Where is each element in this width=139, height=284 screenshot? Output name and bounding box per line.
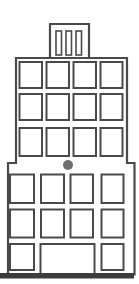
rooftop-slot-window: [76, 31, 82, 55]
tower-window: [101, 128, 123, 156]
entrance-door: [41, 244, 95, 275]
ground-line: [0, 273, 134, 279]
base-window: [10, 244, 34, 270]
tower-window: [101, 94, 123, 120]
tower-window: [47, 62, 70, 88]
base-window: [102, 210, 124, 238]
base-window: [102, 244, 124, 270]
tower-window: [20, 62, 43, 88]
rooftop-slot-window: [66, 31, 72, 55]
base-window: [102, 175, 124, 204]
base-window: [71, 210, 94, 238]
tower-window: [47, 128, 70, 156]
building-drawing: [0, 0, 139, 284]
tower-window: [20, 94, 43, 120]
base-window: [41, 210, 64, 238]
tower-window: [101, 62, 123, 88]
tower-window: [47, 94, 70, 120]
rooftop-slot-window: [56, 31, 62, 55]
base-window: [71, 175, 94, 204]
base-window: [10, 175, 34, 204]
base-windows: [10, 175, 124, 276]
base-window: [41, 175, 64, 204]
tower-window: [20, 128, 43, 156]
rooftop-structure: [50, 24, 89, 58]
building-illustration: [0, 0, 139, 284]
accent-dot: [63, 160, 73, 170]
tower-window: [74, 128, 97, 156]
tower-window: [74, 94, 97, 120]
tower-windows: [20, 62, 123, 156]
base-window: [10, 210, 34, 238]
tower-window: [74, 62, 97, 88]
